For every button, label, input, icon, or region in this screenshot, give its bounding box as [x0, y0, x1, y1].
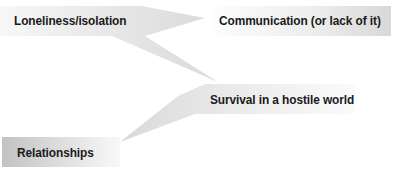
theme-diagram: Loneliness/isolation Communication (or l…: [0, 0, 418, 178]
node-communication-label: Communication (or lack of it): [219, 13, 381, 28]
node-relationships-label: Relationships: [17, 145, 94, 160]
node-loneliness-label: Loneliness/isolation: [14, 13, 126, 28]
node-survival-label: Survival in a hostile world: [210, 92, 354, 107]
